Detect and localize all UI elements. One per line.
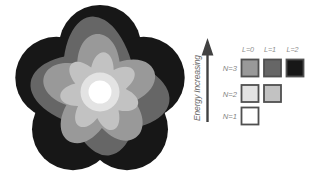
swatch-n3-l1 [264,60,281,77]
energy-increasing-arrow-icon [202,38,214,122]
legend-swatches [242,60,304,125]
energy-legend: Energy Increasing L=0 L=1 L=2 N=3 N=2 N=… [192,38,304,125]
orbital-flower [15,5,184,170]
diagram-canvas: Energy Increasing L=0 L=1 L=2 N=3 N=2 N=… [0,0,311,184]
column-header-l0: L=0 [242,45,254,54]
row-label-n2: N=2 [223,90,238,99]
energy-axis-label: Energy Increasing [192,55,202,121]
orbital-shell-n1-l0 [89,81,112,104]
swatch-n2-l0 [242,85,259,102]
swatch-n2-l1 [264,85,281,102]
legend-column-headers: L=0 L=1 L=2 [242,45,299,54]
column-header-l1: L=1 [264,45,276,54]
column-header-l2: L=2 [286,45,298,54]
swatch-n1-l0 [242,108,259,125]
swatch-n3-l0 [242,60,259,77]
swatch-n3-l2 [287,60,304,77]
orbital-diagram: Energy Increasing L=0 L=1 L=2 N=3 N=2 N=… [0,0,311,184]
row-label-n1: N=1 [223,112,237,121]
legend-row-labels: N=3 N=2 N=1 [223,64,238,121]
row-label-n3: N=3 [223,64,238,73]
